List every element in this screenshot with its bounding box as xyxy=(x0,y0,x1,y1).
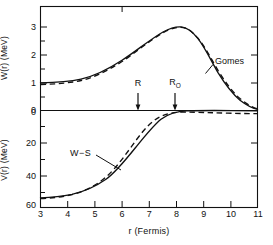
curve-label-ws: W−S xyxy=(70,148,91,158)
upper-y-axis-title: W(r) (MeV) xyxy=(0,36,9,80)
x-tick-label-3: 6 xyxy=(120,209,125,219)
plot-frame xyxy=(41,7,258,208)
figure-container: 3 4 5 6 7 8 9 10 11 3 2 1 0 0 20 40 60 W… xyxy=(0,0,273,245)
lower-y-tick-label-40: 40 xyxy=(26,171,36,181)
x-tick-label-5: 8 xyxy=(174,209,179,219)
x-axis-ticks xyxy=(41,201,258,207)
curve-upper-ws xyxy=(41,27,258,108)
curve-upper-gomes xyxy=(41,27,258,109)
lower-y-tick-label-0: 0 xyxy=(31,107,36,117)
marker-label-R0-sub: O xyxy=(176,82,181,89)
leader-line-gomes xyxy=(206,65,214,74)
x-tick-label-2: 5 xyxy=(92,209,97,219)
lower-y-tick-label-20: 20 xyxy=(26,138,36,148)
lower-y-ticks xyxy=(41,127,258,193)
x-tick-label-1: 4 xyxy=(65,209,70,219)
marker-label-R0: RO xyxy=(169,77,181,89)
curve-label-gomes: Gomes xyxy=(215,56,244,66)
marker-label-R: R xyxy=(135,78,142,88)
upper-y-tick-label-2: 2 xyxy=(31,50,36,60)
x-tick-label-4: 7 xyxy=(147,209,152,219)
marker-arrow-R xyxy=(136,93,141,110)
x-tick-label-6: 9 xyxy=(201,209,206,219)
lower-y-axis-title: V(r) (MeV) xyxy=(0,139,9,181)
upper-y-tick-label-1: 1 xyxy=(31,78,36,88)
upper-y-tick-label-3: 3 xyxy=(31,22,36,32)
lower-y-tick-label-60: 60 xyxy=(26,200,36,210)
x-tick-label-7: 10 xyxy=(226,209,236,219)
leader-line-ws xyxy=(96,155,121,170)
x-tick-label-8: 11 xyxy=(253,209,262,219)
x-axis-title: r (Fermis) xyxy=(129,226,170,236)
x-tick-label-0: 3 xyxy=(38,209,43,219)
marker-arrow-R0 xyxy=(173,93,178,110)
